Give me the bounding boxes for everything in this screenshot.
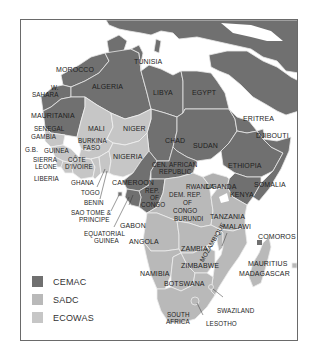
label-mali: MALI [88,125,105,132]
label-benin: BENIN [84,200,104,207]
label-gambia: GAMBIA [31,134,56,141]
label-eritrea: ERITREA [243,115,274,122]
label-sierra-2: LEONE [35,164,57,171]
country-swaziland [209,285,214,290]
label-madagascar: MADAGASCAR [239,270,290,277]
legend-item-cemac: CEMAC [32,275,87,288]
label-cameroon: CAMEROON [112,179,154,186]
label-malawi: MALAWI [223,223,251,230]
legend-label-cemac: CEMAC [53,277,87,287]
label-djibouti: DJIBOUTI [256,132,289,139]
label-cote-2: D'IVOIRE [65,164,93,171]
label-niger: NIGER [123,125,146,132]
label-lesotho: LESOTHO [206,321,237,328]
label-w-sahara-2: SAHARA [32,92,59,99]
label-mauritania: MAURITANIA [31,112,75,119]
label-sao-tome-2: PRINCIPE [79,217,110,224]
label-liberia: LIBERIA [34,176,59,183]
legend-swatch-ecowas [32,312,43,323]
label-tunisia: TUNISIA [134,58,162,65]
label-burundi: BURUNDI [174,216,203,223]
label-drc-3: CONGO [173,208,197,215]
country-gabon [125,189,141,207]
label-swaziland: SWAZILAND [217,308,254,315]
label-togo: TOGO [81,190,100,197]
legend-label-sadc: SADC [53,295,79,305]
label-algeria: ALGERIA [92,83,123,90]
sadc-region [143,173,297,323]
label-ethiopia: ETHIOPIA [228,162,261,169]
label-mauritius: MAURITIUS [248,260,287,267]
label-botswana: BOTSWANA [164,280,205,287]
label-namibia: NAMIBIA [140,270,169,277]
label-kenya: KENYA [230,191,254,198]
label-gb: G.B. [25,147,38,154]
legend-item-ecowas: ECOWAS [32,311,94,324]
label-car-2: REPUBLIC [159,169,191,176]
country-lesotho [191,297,199,305]
label-somalia: SOMALIA [254,181,286,188]
label-chad: CHAD [165,137,185,144]
label-libya: LIBYA [153,89,173,96]
label-egypt: EGYPT [192,89,216,96]
label-eq-guinea-2: GUINEA [94,238,119,245]
label-angola: ANGOLA [129,238,159,245]
legend-swatch-sadc [32,294,43,305]
island-mauritius [292,263,297,268]
label-guinea: GUINEA [44,148,69,155]
label-south-africa-2: AFRICA [166,319,190,326]
label-rep-congo-3: CONGO [141,202,165,209]
label-comoros: COMOROS [258,233,296,240]
label-sudan: SUDAN [193,142,218,149]
label-burkina-2: FASO [83,145,100,152]
legend-label-ecowas: ECOWAS [53,313,94,323]
label-drc-1: DEM. REP. [169,192,201,199]
island-comoros [257,240,262,245]
label-tanzania: TANZANIA [210,213,245,220]
legend-item-sadc: SADC [32,293,79,306]
label-nigeria: NIGERIA [113,153,142,160]
label-ghana: GHANA [71,180,94,187]
label-drc-2: OF [183,200,192,207]
label-zimbabwe: ZIMBABWE [181,262,219,269]
label-gabon: GABON [120,222,146,229]
label-uganda: UGANDA [206,183,237,190]
label-morocco: MOROCCO [56,66,94,73]
label-senegal: SENEGAL [34,126,64,133]
legend-swatch-cemac [32,276,43,287]
